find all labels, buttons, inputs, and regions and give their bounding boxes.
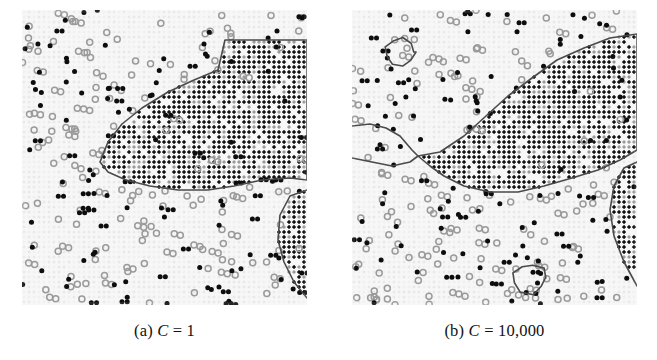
panel-a-plot <box>22 10 307 305</box>
caption-panel-b: (b) C = 10,000 <box>341 316 648 346</box>
caption-b-value: 10,000 <box>498 321 545 340</box>
panel-a-canvas <box>22 10 307 305</box>
panel-b-canvas <box>352 10 637 305</box>
caption-a-value: 1 <box>187 321 195 340</box>
panel-a <box>22 10 307 305</box>
caption-b-index: (b) <box>444 321 464 340</box>
panel-b-plot <box>352 10 637 305</box>
panel-b <box>352 10 637 305</box>
caption-a-index: (a) <box>134 321 153 340</box>
figure-container: (a) C = 1 (b) C = 10,000 <box>0 0 657 360</box>
caption-a-equals: = <box>173 321 183 340</box>
caption-row: (a) C = 1 (b) C = 10,000 <box>0 316 657 356</box>
caption-panel-a: (a) C = 1 <box>11 316 318 346</box>
caption-b-variable: C <box>469 321 480 340</box>
caption-a-variable: C <box>157 321 168 340</box>
caption-b-equals: = <box>484 321 494 340</box>
